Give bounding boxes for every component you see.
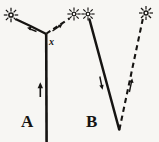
star-burst-icon-top-mid-right xyxy=(81,7,94,20)
direction-arrow-down-solid xyxy=(99,77,103,90)
panel-label-b: B xyxy=(86,113,98,130)
solid-ray-left-arm xyxy=(17,20,46,34)
panel-a-group xyxy=(4,7,81,142)
figure-container: A B x xyxy=(0,0,159,142)
vertex-label-x: x xyxy=(49,37,54,47)
dashed-ray-right-arm xyxy=(47,19,70,34)
panel-label-a: A xyxy=(21,113,34,130)
direction-arrow-up-vertical xyxy=(38,82,43,97)
star-burst-icon-top-right xyxy=(139,6,153,20)
dashed-ray-ascending xyxy=(119,19,142,130)
panel-b-group xyxy=(81,6,153,130)
